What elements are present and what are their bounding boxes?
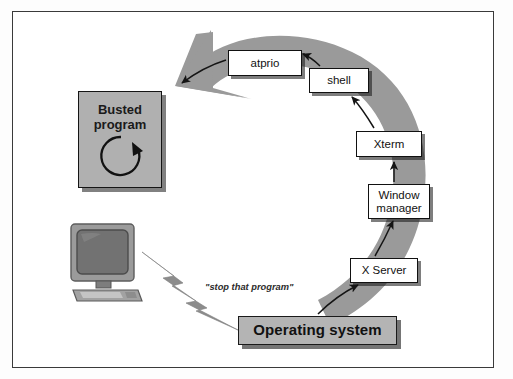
stop-that-program-annotation: "stop that program" (205, 282, 293, 292)
keyboard-icon (73, 290, 142, 301)
window-manager-label: Window manager (376, 189, 421, 214)
atprio-box[interactable]: atprio (228, 50, 302, 76)
diagram-canvas: Busted program atprio shell Xterm Window… (0, 0, 513, 379)
busted-program-box[interactable]: Busted program (78, 91, 162, 188)
crt-monitor-icon (71, 224, 134, 288)
shell-box[interactable]: shell (309, 68, 369, 93)
xterm-box[interactable]: Xterm (356, 131, 422, 157)
desktop-computer-illustration (68, 222, 144, 304)
window-manager-box[interactable]: Window manager (368, 184, 430, 219)
circular-arrow-loop-icon (79, 129, 163, 181)
operating-system-box[interactable]: Operating system (238, 316, 397, 345)
x-server-box[interactable]: X Server (350, 258, 418, 283)
